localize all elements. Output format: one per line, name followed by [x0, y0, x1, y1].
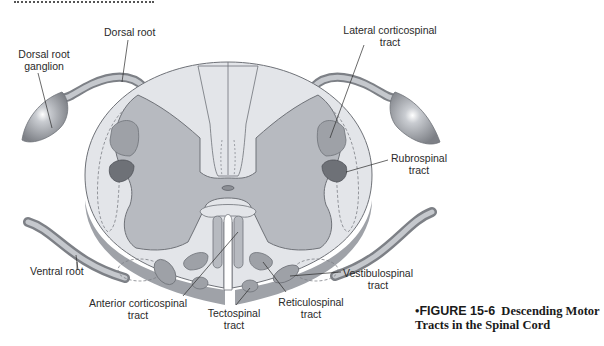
figure-number: FIGURE 15-6	[419, 304, 495, 318]
label-line: Vestibulospinal	[340, 267, 416, 279]
caption-line-1: •FIGURE 15-6 Descending Motor	[415, 304, 604, 318]
lateral-corticospinal-tract-right	[317, 121, 346, 157]
label-line: ganglion	[14, 60, 74, 72]
label-line: tract	[276, 308, 346, 320]
label-line: tract	[388, 164, 450, 176]
tectospinal-tract	[242, 280, 258, 292]
label-line: tract	[206, 319, 262, 331]
label-tectospinal-tract: Tectospinal tract	[206, 307, 262, 331]
label-line: tract	[340, 279, 416, 291]
label-ventral-root: Ventral root	[30, 265, 84, 277]
label-vestibulospinal-tract: Vestibulospinal tract	[340, 267, 416, 291]
label-line: Lateral corticospinal	[340, 24, 440, 36]
label-anterior-corticospinal-tract: Anterior corticospinal tract	[86, 297, 190, 321]
caption-title-2: Tracts in the Spinal Cord	[415, 318, 604, 332]
label-dorsal-root-ganglion: Dorsal root ganglion	[14, 48, 74, 72]
label-line: Rubrospinal	[388, 152, 450, 164]
label-lateral-corticospinal-tract: Lateral corticospinal tract	[340, 24, 440, 48]
lateral-corticospinal-tract-left	[110, 121, 139, 157]
label-line: tract	[340, 36, 440, 48]
label-reticulospinal-tract: Reticulospinal tract	[276, 296, 346, 320]
central-canal	[222, 186, 234, 191]
caption-title-1: Descending Motor	[501, 304, 599, 318]
label-rubrospinal-tract: Rubrospinal tract	[388, 152, 450, 176]
label-line: Dorsal root	[14, 48, 74, 60]
label-line: Tectospinal	[206, 307, 262, 319]
anterior-corticospinal-tract-left	[213, 216, 222, 268]
label-dorsal-root: Dorsal root	[104, 26, 155, 38]
anterior-corticospinal-tract-right	[234, 216, 243, 268]
figure-caption: •FIGURE 15-6 Descending Motor Tracts in …	[415, 304, 604, 332]
label-line: Reticulospinal	[276, 296, 346, 308]
spinal-cord-diagram: Spinal Cord	[0, 0, 604, 346]
label-line: tract	[86, 309, 190, 321]
cord-illustration	[0, 0, 604, 346]
label-line: Anterior corticospinal	[86, 297, 190, 309]
